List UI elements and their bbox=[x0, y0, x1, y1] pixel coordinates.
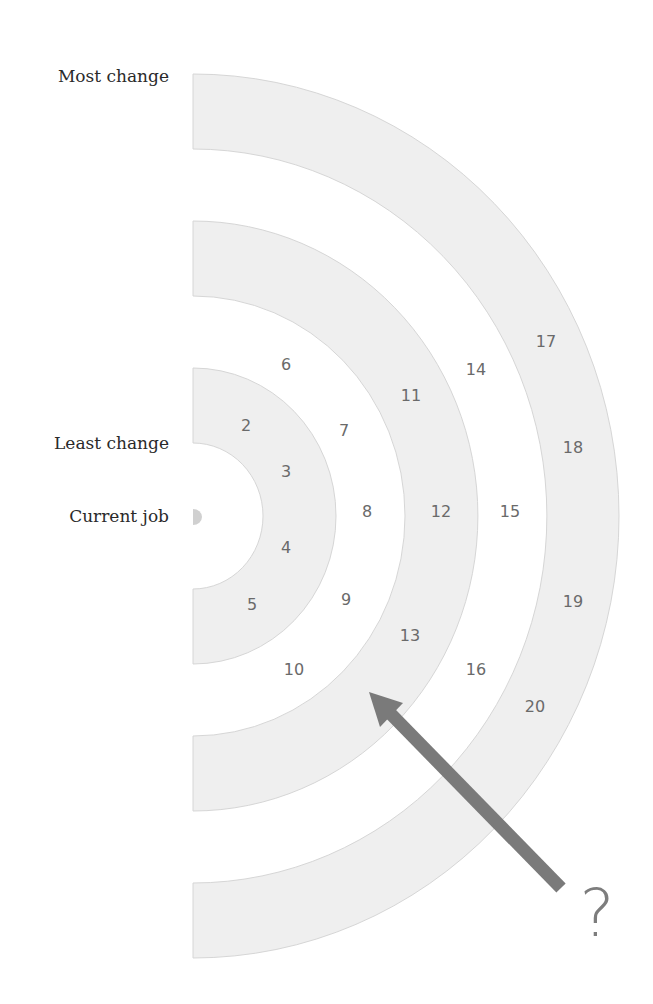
most-change-label: Most change bbox=[58, 66, 169, 86]
current-job-dot-icon bbox=[193, 509, 202, 525]
position-number: 7 bbox=[339, 422, 349, 440]
position-number: 6 bbox=[281, 356, 291, 374]
position-number: 17 bbox=[536, 333, 556, 351]
position-number: 12 bbox=[431, 503, 451, 521]
position-number: 14 bbox=[466, 361, 486, 379]
position-number: 2 bbox=[241, 417, 251, 435]
position-number: 8 bbox=[362, 503, 372, 521]
position-number: 20 bbox=[525, 698, 545, 716]
ring-inner bbox=[193, 368, 336, 664]
position-number: 10 bbox=[284, 661, 304, 679]
position-number: 16 bbox=[466, 661, 486, 679]
position-number: 3 bbox=[281, 463, 291, 481]
position-number: 5 bbox=[247, 596, 257, 614]
position-number: 11 bbox=[401, 387, 421, 405]
position-number: 19 bbox=[563, 593, 583, 611]
ring-labels: Most change Least change Current job bbox=[0, 0, 169, 1004]
least-change-label: Least change bbox=[54, 433, 169, 453]
position-number: 4 bbox=[281, 539, 291, 557]
career-change-target-diagram: Most change Least change Current job 2 3… bbox=[0, 0, 653, 1004]
position-number: 9 bbox=[341, 591, 351, 609]
position-number: 18 bbox=[563, 439, 583, 457]
current-job-label: Current job bbox=[69, 506, 169, 526]
position-number: 15 bbox=[500, 503, 520, 521]
question-mark-icon: ? bbox=[579, 881, 614, 947]
position-number: 13 bbox=[400, 627, 420, 645]
